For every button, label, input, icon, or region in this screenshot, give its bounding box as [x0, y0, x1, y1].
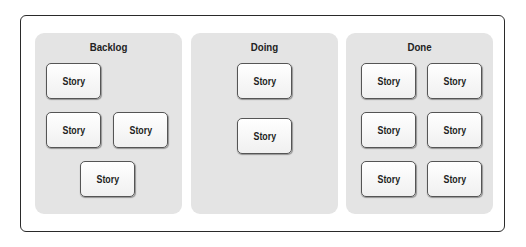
story-card-label: Story — [62, 76, 84, 87]
column-title-done: Done — [355, 41, 484, 53]
story-card-backlog-4[interactable]: Story — [80, 161, 135, 197]
story-card-label: Story — [129, 125, 151, 136]
story-card-label: Story — [377, 174, 399, 185]
story-card-label: Story — [96, 174, 118, 185]
story-card-doing-2[interactable]: Story — [237, 118, 292, 154]
story-card-label: Story — [253, 76, 275, 87]
column-title-backlog: Backlog — [44, 41, 173, 53]
story-card-done-5[interactable]: Story — [361, 161, 416, 197]
story-card-done-1[interactable]: Story — [361, 63, 416, 99]
story-card-done-4[interactable]: Story — [427, 112, 482, 148]
story-card-label: Story — [62, 125, 84, 136]
story-card-label: Story — [443, 76, 465, 87]
story-card-label: Story — [443, 125, 465, 136]
story-card-done-2[interactable]: Story — [427, 63, 482, 99]
story-card-label: Story — [253, 131, 275, 142]
story-card-backlog-1[interactable]: Story — [46, 63, 101, 99]
story-card-done-3[interactable]: Story — [361, 112, 416, 148]
story-card-backlog-2[interactable]: Story — [46, 112, 101, 148]
story-card-backlog-3[interactable]: Story — [113, 112, 168, 148]
story-card-done-6[interactable]: Story — [427, 161, 482, 197]
story-card-label: Story — [443, 174, 465, 185]
story-card-label: Story — [377, 76, 399, 87]
story-card-label: Story — [377, 125, 399, 136]
column-title-doing: Doing — [200, 41, 329, 53]
story-card-doing-1[interactable]: Story — [237, 63, 292, 99]
